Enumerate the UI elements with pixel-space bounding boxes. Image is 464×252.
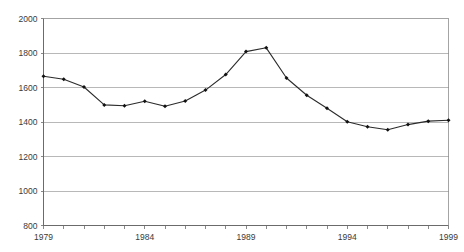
x-axis-ticks-group [44,226,449,230]
y-axis-label-2000: 2000 [19,14,38,24]
y-axis-label-1400: 1400 [19,117,38,127]
y-axis-label-1000: 1000 [19,186,38,196]
y-axis-label-1600: 1600 [19,83,38,93]
chart-background [0,0,464,252]
line-chart: 200018001600140012001000800 197919841989… [0,0,464,252]
y-axis-label-1800: 1800 [19,48,38,58]
chart-container: 200018001600140012001000800 197919841989… [0,0,464,252]
x-axis-label-1979: 1979 [34,232,53,242]
x-axis-label-1989: 1989 [237,232,256,242]
x-axis-label-1999: 1999 [439,232,458,242]
y-axis-label-800: 800 [23,221,37,231]
x-axis-label-1984: 1984 [135,232,154,242]
x-axis-label-1994: 1994 [338,232,357,242]
y-axis-label-1200: 1200 [19,152,38,162]
